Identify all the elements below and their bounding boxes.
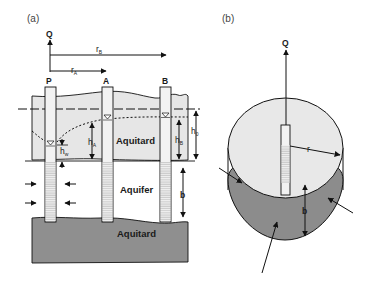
aquifer-label: Aquifer: [120, 184, 154, 195]
thickness-label-b: b: [302, 206, 307, 216]
panel-a-label: (a): [27, 13, 39, 24]
radius-b-label: rB: [96, 44, 103, 55]
well-b-screen: [282, 145, 290, 183]
well-p-label: P: [46, 76, 52, 86]
discharge-label-b: Q: [282, 38, 289, 48]
well-a: [102, 87, 113, 222]
discharge-label-a: Q: [46, 29, 53, 39]
panel-a: (a) Aquitard Aquitard Aquifer P: [18, 13, 200, 263]
well-a-label: A: [103, 76, 109, 86]
thickness-label-a: b: [180, 190, 185, 200]
well-p: [45, 87, 56, 222]
lower-aquitard-layer: [32, 217, 188, 263]
panel-b: (b) Q r b: [219, 13, 353, 273]
radius-label-b: r: [307, 144, 310, 154]
well-b: [160, 87, 171, 222]
lower-aquitard-label: Aquitard: [117, 228, 156, 239]
diagram-canvas: (a) Aquitard Aquitard Aquifer P: [0, 0, 365, 287]
radius-a-label: rA: [71, 65, 78, 76]
upper-aquitard-label: Aquitard: [116, 135, 155, 146]
well-b-label: B: [162, 76, 168, 86]
head-0-label: h0: [191, 126, 199, 137]
panel-b-label: (b): [222, 13, 234, 24]
